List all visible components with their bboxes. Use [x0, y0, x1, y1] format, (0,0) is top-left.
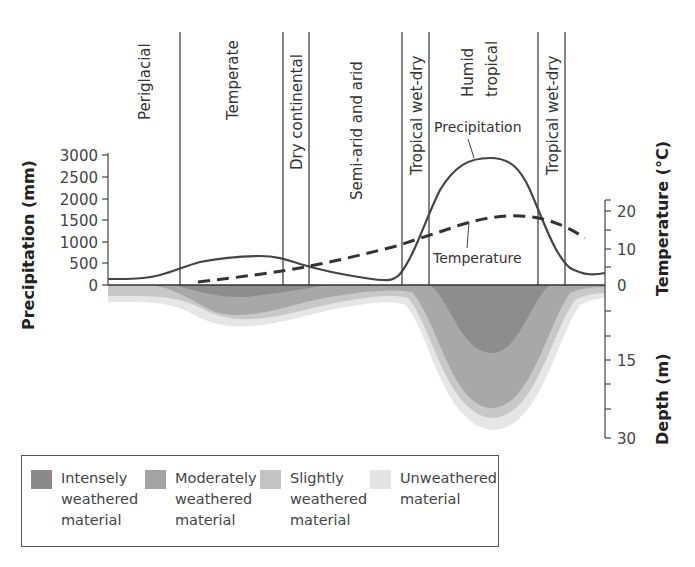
zone-label-tropical-wet-dry-left: Tropical wet-dry [408, 55, 426, 176]
zone-label-tropical-wet-dry-right: Tropical wet-dry [544, 55, 562, 176]
legend-item-moderately: Moderately weathered material [145, 468, 257, 531]
zone-label-dry-continental: Dry continental [288, 54, 306, 170]
left-tick-3000: 3000 [60, 147, 98, 165]
zone-label-humid-line1: Humid [459, 48, 477, 97]
left-tick-0: 0 [88, 277, 98, 295]
zone-label-humid-line2: tropical [483, 41, 501, 97]
temperature-annotation: Temperature [432, 250, 522, 266]
left-axis: 3000 2500 2000 1500 1000 500 0 Precipita… [19, 147, 108, 330]
right-tick-0: 0 [617, 277, 627, 295]
right-tick-10: 10 [617, 241, 636, 259]
legend-item-intensely: Intensely weathered material [31, 468, 138, 531]
left-tick-2500: 2500 [60, 169, 98, 187]
legend-label-unweathered: Unweathered material [400, 468, 497, 510]
legend-swatch-unweathered [370, 470, 391, 489]
temperature-axis-title: Temperature (°C) [653, 141, 672, 296]
left-tick-1500: 1500 [60, 212, 98, 230]
right-tick-20: 20 [617, 203, 636, 221]
zone-label-periglacial: Periglacial [136, 43, 154, 120]
temperature-line [198, 216, 585, 282]
legend-swatch-intensely [31, 470, 52, 489]
legend-label-intensely: Intensely weathered material [61, 468, 138, 531]
zone-label-temperate: Temperate [224, 40, 242, 121]
right-tick-30: 30 [617, 430, 636, 448]
depth-axis-title: Depth (m) [653, 354, 672, 446]
left-tick-500: 500 [69, 255, 98, 273]
temperature-leader [467, 222, 469, 248]
legend: Intensely weathered material Moderately … [21, 455, 499, 547]
precipitation-leader [468, 139, 474, 158]
left-tick-2000: 2000 [60, 191, 98, 209]
legend-item-unweathered: Unweathered material [370, 468, 497, 510]
right-axis: 20 10 0 15 30 Temperature (°C) Depth (m) [605, 141, 672, 448]
right-tick-15: 15 [617, 352, 636, 370]
legend-label-slightly: Slightly weathered material [290, 468, 367, 531]
left-tick-1000: 1000 [60, 234, 98, 252]
precipitation-annotation: Precipitation [434, 119, 522, 135]
legend-swatch-moderately [145, 470, 166, 489]
legend-swatch-slightly [260, 470, 281, 489]
left-axis-title: Precipitation (mm) [19, 160, 38, 330]
legend-label-moderately: Moderately weathered material [175, 468, 257, 531]
zone-label-semi-arid: Semi-arid and arid [348, 61, 366, 200]
legend-item-slightly: Slightly weathered material [260, 468, 367, 531]
